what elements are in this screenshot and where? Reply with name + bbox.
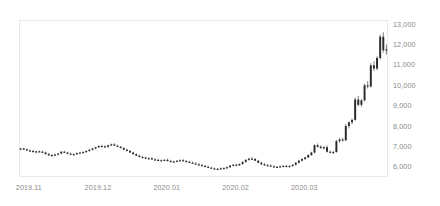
candle-body: [370, 65, 372, 86]
candle-body: [376, 58, 378, 69]
x-tick-label: 2019.11: [16, 183, 42, 192]
candle-body: [351, 120, 353, 122]
candle-body: [182, 160, 184, 161]
candle-body: [323, 147, 325, 148]
candle-body: [126, 150, 128, 151]
y-tick-label: 7,000: [393, 142, 412, 151]
candle-body: [70, 154, 72, 155]
candle-body: [23, 148, 25, 149]
candle-body: [329, 152, 331, 153]
candle-body: [379, 37, 381, 58]
candle-body: [342, 139, 344, 140]
x-tick-label: 2020.01: [153, 183, 180, 192]
candle-body: [264, 164, 266, 165]
candle-body: [335, 141, 337, 152]
candle-body: [314, 145, 316, 152]
candle-body: [382, 37, 384, 50]
candle-body: [320, 147, 322, 148]
candle-body: [301, 159, 303, 161]
candle-body: [226, 167, 228, 168]
candle-body: [132, 153, 134, 155]
candle-body: [98, 146, 100, 147]
candle-body: [135, 154, 137, 156]
candle-body: [104, 146, 106, 147]
candle-body: [257, 161, 259, 163]
candle-body: [310, 153, 312, 155]
x-tick-label: 2019.12: [85, 183, 112, 192]
candle-body: [260, 163, 262, 165]
candle-body: [20, 148, 22, 149]
candle-body: [292, 165, 294, 166]
candle-body: [129, 151, 131, 153]
y-tick-label: 6,000: [393, 162, 412, 171]
candle-body: [26, 149, 28, 150]
candle-body: [170, 161, 172, 162]
y-tick-label: 8,000: [393, 122, 412, 131]
candle-body: [79, 153, 81, 154]
candle-body: [101, 146, 103, 147]
candle-body: [185, 161, 187, 162]
candle-body: [188, 162, 190, 163]
candle-body: [238, 164, 240, 165]
candle-body: [279, 166, 281, 167]
candle-body: [57, 154, 59, 155]
candle-body: [113, 144, 115, 145]
candle-body: [29, 150, 31, 151]
x-tick-label: 2020.02: [222, 183, 249, 192]
candle-body: [242, 162, 244, 164]
candle-body: [245, 160, 247, 162]
candle-body: [38, 151, 40, 152]
candle-body: [364, 85, 366, 100]
candle-body: [35, 151, 37, 152]
candlestick-series: [19, 20, 388, 177]
y-tick-label: 11,000: [393, 60, 415, 69]
candle-body: [88, 150, 90, 151]
candle-body: [41, 152, 43, 153]
candle-body: [92, 148, 94, 149]
candle-body: [332, 152, 334, 153]
candle-body: [317, 145, 319, 147]
candle-body: [160, 160, 162, 161]
candlestick-chart: 6,0007,0008,0009,00010,00011,00012,00013…: [0, 0, 440, 206]
candle-body: [213, 168, 215, 169]
candle-body: [167, 160, 169, 161]
candle-body: [289, 166, 291, 167]
candle-body: [295, 163, 297, 165]
candle-body: [207, 167, 209, 168]
candle-body: [367, 85, 369, 86]
y-tick-label: 10,000: [393, 81, 416, 90]
candle-body: [198, 164, 200, 165]
candle-body: [82, 152, 84, 153]
y-tick-label: 9,000: [393, 101, 412, 110]
candle-body: [163, 160, 165, 161]
candle-body: [76, 153, 78, 154]
candle-body: [154, 159, 156, 160]
candle-body: [229, 166, 231, 168]
candle-body: [138, 156, 140, 157]
candle-body: [285, 166, 287, 167]
candle-body: [54, 155, 56, 156]
candle-body: [201, 165, 203, 166]
candle-body: [223, 168, 225, 169]
candle-body: [235, 165, 237, 166]
candle-body: [142, 157, 144, 158]
candle-body: [232, 165, 234, 166]
candle-body: [276, 167, 278, 168]
candle-body: [251, 159, 253, 160]
candle-body: [357, 100, 359, 105]
candle-body: [217, 169, 219, 170]
candle-body: [151, 158, 153, 159]
candle-body: [304, 157, 306, 159]
candle-body: [107, 145, 109, 147]
candle-body: [145, 157, 147, 158]
candle-body: [192, 163, 194, 164]
candle-body: [95, 147, 97, 148]
candle-body: [110, 144, 112, 145]
candle-body: [120, 147, 122, 148]
candle-body: [270, 166, 272, 167]
candle-body: [148, 158, 150, 159]
candle-body: [345, 126, 347, 140]
candle-body: [248, 159, 250, 160]
candle-body: [348, 122, 350, 126]
candle-body: [267, 165, 269, 166]
